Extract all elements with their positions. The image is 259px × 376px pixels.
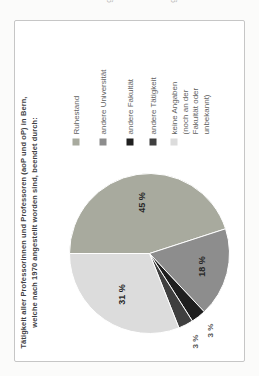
legend-label-andere-fakultaet: andere Fakultät [126, 79, 137, 135]
scan-artifact-left: g [104, 0, 113, 3]
pie-chart: 45 % 18 % 3 % 3 % 31 % [40, 144, 246, 363]
legend-item-andere-taetigkeit: andere Tätigkeit [149, 77, 160, 145]
pie-label-andere-taetigkeit: 3 % [191, 335, 200, 349]
chart-title-line-2: welche nach 1970 angestellt worden sind,… [29, 91, 40, 355]
pie-label-ruhestand: 45 % [137, 192, 147, 213]
legend-label-andere-universitaet: andere Universität [99, 70, 110, 135]
pie-label-andere-fakultaet: 3 % [206, 324, 215, 338]
pie-label-keine-angaben: 31 % [117, 284, 127, 305]
legend-label-ruhestand: Ruhestand [72, 96, 83, 135]
chart-canvas-rotated: Tätigkeit aller Professorinnen und Profe… [16, 21, 245, 361]
pie-label-andere-universitaet: 18 % [197, 256, 207, 277]
legend-item-andere-fakultaet: andere Fakultät [126, 79, 137, 146]
legend-label-keine-angaben-line-3: Fakultät oder [191, 82, 202, 135]
legend-label-keine-angaben-line-4: unbekannt) [201, 82, 212, 135]
scan-artifact-right: g [168, 0, 177, 3]
legend-label-keine-angaben-line-2: (noch an der [180, 82, 191, 135]
legend-label-keine-angaben-line-1: keine Angaben [170, 82, 181, 135]
scanned-page: { "page": { "artifacts": { "left": "g", … [0, 0, 259, 376]
chart-title-line-1: Tätigkeit aller Professorinnen und Profe… [19, 91, 30, 355]
legend-item-keine-angaben: keine Angaben (noch an der Fakultät oder… [170, 82, 212, 146]
legend-item-ruhestand: Ruhestand [72, 96, 83, 146]
chart-title: Tätigkeit aller Professorinnen und Profe… [19, 91, 40, 355]
chart-frame: Tätigkeit aller Professorinnen und Profe… [14, 20, 245, 362]
legend-label-andere-taetigkeit: andere Tätigkeit [149, 77, 160, 134]
legend-label-keine-angaben: keine Angaben (noch an der Fakultät oder… [170, 82, 212, 135]
legend-item-andere-universitaet: andere Universität [99, 70, 110, 146]
